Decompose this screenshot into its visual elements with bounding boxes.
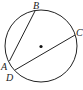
label-d: D [5, 72, 14, 83]
label-c: C [76, 27, 83, 38]
circle-diagram: B C A D [0, 0, 83, 90]
center-point [39, 45, 42, 48]
chord-dc [15, 35, 75, 70]
label-a: A [0, 61, 8, 72]
label-b: B [33, 0, 39, 11]
chord-ab [10, 11, 36, 61]
